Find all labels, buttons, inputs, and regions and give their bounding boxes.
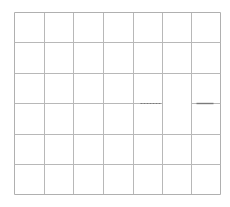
chart-canvas	[0, 0, 230, 207]
plot-grid	[0, 0, 230, 207]
